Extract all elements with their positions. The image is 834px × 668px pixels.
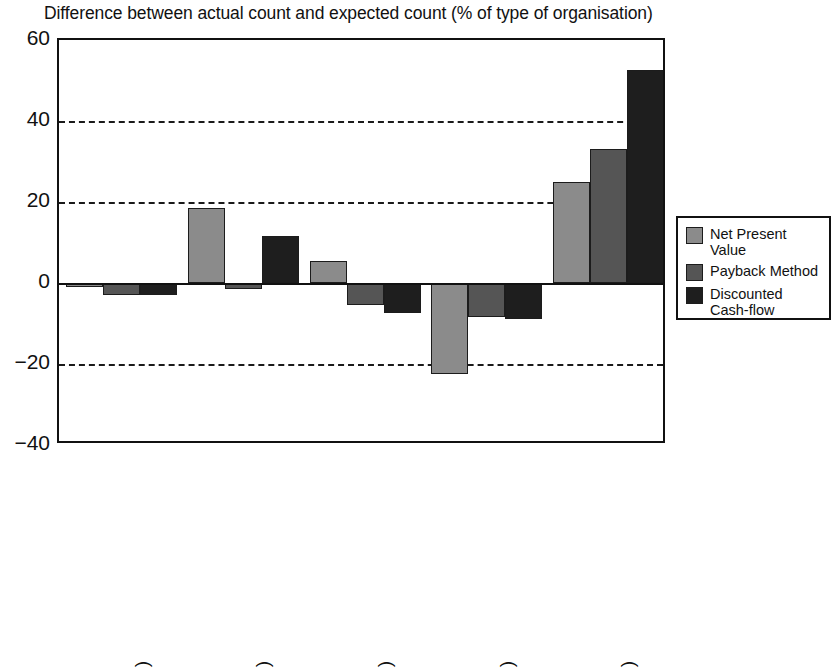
x-category-label: Project Man't (20) (617, 661, 639, 668)
legend-label: Net Present Value (710, 226, 823, 258)
x-category-label: Multi-dis'y (29) (252, 661, 274, 668)
legend-item: Payback Method (686, 263, 823, 281)
bar (431, 283, 468, 374)
legend-item: Discounted Cash-flow (686, 286, 823, 318)
y-tick-label: −20 (0, 351, 50, 372)
bar (347, 283, 384, 305)
chart-title: Difference between actual count and expe… (44, 2, 804, 24)
legend-label: Discounted Cash-flow (710, 286, 783, 318)
bar (310, 261, 347, 283)
bar (188, 208, 225, 283)
y-tick-label: 60 (0, 27, 50, 48)
x-category-label: Quantity Surv'g (234) (131, 661, 153, 668)
bar (384, 283, 421, 313)
legend-swatch-icon (686, 264, 703, 281)
legend-label: Payback Method (710, 263, 818, 279)
y-axis-tick-labels: 6040200−20−40 (0, 38, 50, 443)
plot-area (57, 38, 665, 443)
gridline (59, 121, 663, 123)
legend-swatch-icon (686, 227, 703, 244)
bar (627, 70, 663, 283)
gridline (59, 364, 663, 366)
bar (553, 182, 590, 283)
legend-swatch-icon (686, 287, 703, 304)
plot-inner (59, 40, 663, 441)
bar (468, 283, 505, 317)
chart-root: Difference between actual count and expe… (0, 0, 834, 668)
bar (505, 283, 542, 319)
y-tick-label: 20 (0, 189, 50, 210)
y-tick-label: 40 (0, 108, 50, 129)
legend: Net Present ValuePayback MethodDiscounte… (676, 216, 831, 320)
y-tick-label: −40 (0, 432, 50, 453)
legend-item: Net Present Value (686, 226, 823, 258)
x-category-label: Public and LA (38) (374, 661, 396, 668)
bar (590, 149, 627, 283)
x-axis-category-labels: Quantity Surv'g (234)Multi-dis'y (29)Pub… (57, 443, 665, 668)
zero-axis-line (59, 283, 663, 285)
y-tick-label: 0 (0, 270, 50, 291)
bar (262, 236, 299, 283)
x-category-label: Contracting (46) (496, 661, 518, 668)
